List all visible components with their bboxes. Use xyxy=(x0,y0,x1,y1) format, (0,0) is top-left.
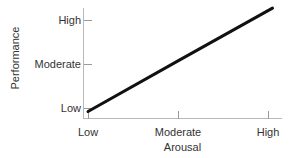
plot-area xyxy=(0,0,292,158)
data-series-line xyxy=(88,8,273,111)
chart-figure: High Moderate Low Low Moderate High Perf… xyxy=(0,0,292,158)
